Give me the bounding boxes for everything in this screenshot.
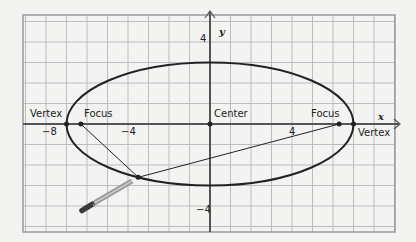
point-on-ellipse (136, 175, 141, 180)
left-focus-point (78, 122, 83, 127)
right-vertex-label: Vertex (358, 127, 390, 138)
right-vertex-point (351, 122, 356, 127)
x-tick-4: 4 (289, 126, 295, 137)
x-tick-neg4: −4 (121, 126, 136, 137)
left-vertex-label: Vertex (30, 108, 62, 119)
left-focus-label: Focus (84, 108, 113, 119)
right-focus-label: Focus (311, 108, 340, 119)
x-tick-neg8: −8 (42, 126, 57, 137)
left-vertex-point (64, 122, 69, 127)
y-tick-neg4: −4 (196, 204, 211, 215)
y-tick-4: 4 (200, 33, 206, 44)
center-label: Center (214, 108, 249, 119)
right-focus-point (337, 122, 342, 127)
axes (23, 11, 400, 232)
y-axis-label: y (218, 26, 226, 37)
x-axis-label: x (377, 111, 385, 122)
ellipse-diagram: Vertex Focus Center Focus Vertex −8 −4 4… (0, 0, 416, 242)
center-point (208, 122, 213, 127)
